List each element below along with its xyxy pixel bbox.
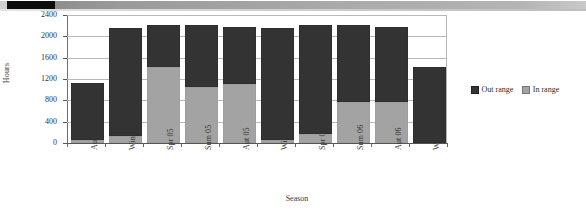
bar-group[interactable] (147, 25, 180, 143)
y-tick-mark (63, 122, 67, 123)
y-tick-mark (63, 58, 67, 59)
scan-edge-artifact (0, 1, 586, 9)
y-tick-mark (63, 36, 67, 37)
x-tick-mark (143, 143, 144, 147)
x-tick-mark (257, 143, 258, 147)
x-tick-mark (447, 143, 448, 147)
bar-segment-out-range[interactable] (299, 25, 332, 134)
y-tick-label: 400 (23, 118, 57, 126)
x-axis-label-win-04: Win 04 (128, 126, 137, 150)
bar-segment-out-range[interactable] (261, 28, 294, 140)
y-tick-mark (63, 79, 67, 80)
y-tick-label: 800 (23, 96, 57, 104)
stacked-bar-chart: Hours 04008001200160020002400 Aut 04Win … (0, 11, 586, 211)
bar-segment-out-range[interactable] (375, 27, 408, 102)
legend-item-out-range: Out range (471, 85, 513, 94)
in-range-swatch-icon (522, 86, 530, 94)
x-axis-label-sum-06: Sum 06 (356, 125, 365, 150)
x-axis-label-win-05: Win 05 (280, 126, 289, 150)
bar-series-container (68, 15, 447, 143)
bar-group[interactable] (375, 27, 408, 143)
bar-segment-out-range[interactable] (185, 25, 218, 87)
bar-segment-out-range[interactable] (223, 27, 256, 84)
x-tick-mark (181, 143, 182, 147)
x-tick-mark (295, 143, 296, 147)
chart-legend: Out range In range (471, 85, 559, 94)
x-tick-mark (371, 143, 372, 147)
y-tick-label: 1600 (23, 54, 57, 62)
x-axis-label-win-06: Win 06 (432, 126, 441, 150)
bar-group[interactable] (299, 25, 332, 143)
x-tick-mark (67, 143, 68, 147)
x-axis-label-spr-05: Spr 05 (166, 128, 175, 150)
bar-segment-out-range[interactable] (109, 28, 142, 136)
y-tick-mark (63, 100, 67, 101)
legend-item-in-range: In range (522, 85, 559, 94)
x-tick-mark (409, 143, 410, 147)
x-axis-label-aut-04: Aut 04 (90, 127, 99, 150)
x-tick-mark (105, 143, 106, 147)
x-axis-label-spr-06: Spr 06 (318, 128, 327, 150)
legend-label-out-range: Out range (482, 85, 514, 94)
x-tick-mark (333, 143, 334, 147)
x-axis-label-aut-06: Aut 06 (394, 127, 403, 150)
legend-label-in-range: In range (533, 85, 559, 94)
x-axis-title: Season (67, 194, 527, 203)
y-tick-mark (63, 15, 67, 16)
bar-group[interactable] (223, 27, 256, 143)
y-axis-title: Hours (2, 43, 22, 103)
x-axis-label-aut-05: Aut 05 (242, 127, 251, 150)
y-tick-label: 0 (23, 139, 57, 147)
y-tick-label: 2000 (23, 32, 57, 40)
x-axis-label-sum-05: Sum 05 (204, 125, 213, 150)
y-tick-label: 1200 (23, 75, 57, 83)
bar-segment-out-range[interactable] (337, 25, 370, 102)
bar-segment-out-range[interactable] (147, 25, 180, 67)
y-tick-label: 2400 (23, 11, 57, 19)
out-range-swatch-icon (471, 86, 479, 94)
plot-wrapper: 04008001200160020002400 Aut 04Win 04Spr … (67, 15, 447, 143)
x-tick-mark (219, 143, 220, 147)
